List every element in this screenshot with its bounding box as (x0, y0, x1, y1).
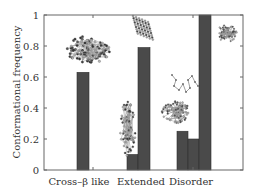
molecule-illustration (66, 36, 110, 64)
y-tick-label: 1 (33, 10, 39, 21)
bar (127, 155, 138, 171)
x-category-label: Cross–β like (48, 176, 109, 187)
y-tick-label: 0.2 (23, 134, 39, 145)
bars (77, 15, 211, 170)
x-category-label: Extended (117, 176, 166, 187)
y-tick-label: 0 (33, 165, 39, 176)
molecule-illustration (132, 15, 154, 41)
bar-chart: Conformational frequency 00.20.40.60.81 … (0, 0, 255, 194)
y-tick-label: 0.4 (23, 103, 39, 114)
bar (188, 139, 199, 170)
bar (177, 131, 188, 170)
y-tick-label: 0.8 (23, 41, 39, 52)
bar (138, 48, 150, 170)
y-axis-label: Conformational frequency (11, 25, 22, 158)
structure-illustrations (66, 15, 237, 157)
bar (199, 15, 211, 170)
bar (77, 72, 89, 170)
y-tick-label: 0.6 (23, 72, 39, 83)
molecule-illustration (219, 25, 238, 42)
molecule-illustration (161, 101, 189, 124)
x-category-labels: Cross–β likeExtendedDisorder (48, 176, 213, 187)
molecule-illustration (119, 101, 136, 157)
x-category-label: Disorder (169, 176, 213, 187)
molecule-illustration (171, 74, 199, 93)
y-tick-labels: 00.20.40.60.81 (23, 10, 39, 176)
